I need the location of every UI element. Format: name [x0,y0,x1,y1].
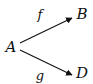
node-b: B [76,7,87,22]
arrow-g-a-to-d [20,50,72,75]
arrow-f-a-to-b [20,18,72,43]
edge-label-g: g [36,69,44,82]
node-a: A [6,40,17,55]
edge-label-f: f [38,8,43,21]
node-d: D [76,66,88,81]
commutative-diagram: A B D f g [0,0,93,84]
